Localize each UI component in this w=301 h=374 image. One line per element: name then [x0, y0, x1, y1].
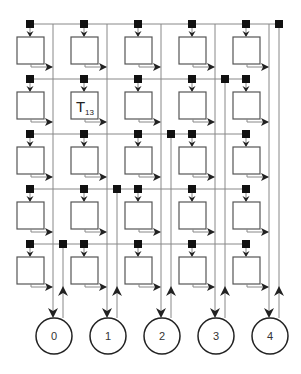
- tap-node-icon: [134, 130, 142, 138]
- nodes-layer: 01234: [36, 318, 288, 354]
- processing-cell: [233, 240, 268, 287]
- processing-cell: [71, 240, 106, 287]
- tap-node-icon: [188, 185, 196, 193]
- processing-cell: [71, 20, 106, 67]
- injection-node-icon: [275, 20, 283, 28]
- tap-node-icon: [242, 185, 250, 193]
- cell-box: [233, 147, 260, 174]
- cell-box: [125, 202, 152, 229]
- tap-node-icon: [80, 20, 88, 28]
- processing-cell: [17, 185, 52, 232]
- processing-cell: [17, 240, 52, 287]
- cell-box: [233, 257, 260, 284]
- cell-label: T: [76, 98, 85, 115]
- cell-box: [71, 147, 98, 174]
- tap-node-icon: [26, 20, 34, 28]
- tap-node-icon: [26, 185, 34, 193]
- injection-node-icon: [221, 75, 229, 83]
- tap-node-icon: [242, 130, 250, 138]
- cell-box: [17, 92, 44, 119]
- cell-box: [71, 257, 98, 284]
- tap-node-icon: [80, 130, 88, 138]
- cell-box: [179, 92, 206, 119]
- node-label: 3: [213, 330, 219, 342]
- processing-cell: [125, 130, 160, 177]
- tap-node-icon: [134, 240, 142, 248]
- tap-node-icon: [188, 20, 196, 28]
- tap-node-icon: [188, 130, 196, 138]
- cell-box: [17, 202, 44, 229]
- cell-box: [17, 37, 44, 64]
- node-label: 0: [51, 330, 57, 342]
- processing-cell: [179, 240, 214, 287]
- processing-cell: [125, 20, 160, 67]
- processor-grid-diagram: T13 01234: [0, 0, 301, 374]
- processing-cell: [125, 240, 160, 287]
- cell-box: [179, 147, 206, 174]
- injection-node-icon: [167, 130, 175, 138]
- cell-box: [125, 257, 152, 284]
- tap-node-icon: [26, 240, 34, 248]
- tap-node-icon: [188, 240, 196, 248]
- processing-cell: [71, 185, 106, 232]
- cell-box: [179, 37, 206, 64]
- cell-box: [17, 147, 44, 174]
- cell-box: [125, 147, 152, 174]
- node-label: 4: [267, 330, 273, 342]
- processing-cell: [17, 20, 52, 67]
- tap-node-icon: [242, 20, 250, 28]
- cell-box: [179, 202, 206, 229]
- cell-box: [179, 257, 206, 284]
- injection-node-icon: [59, 240, 67, 248]
- tap-node-icon: [80, 75, 88, 83]
- tap-node-icon: [134, 185, 142, 193]
- cell-box: [125, 37, 152, 64]
- processing-cell: [179, 20, 214, 67]
- cell-box: [233, 202, 260, 229]
- processing-cell: [233, 20, 268, 67]
- cell-box: [17, 257, 44, 284]
- tap-node-icon: [80, 185, 88, 193]
- tap-node-icon: [134, 75, 142, 83]
- tap-node-icon: [80, 240, 88, 248]
- processing-cell: [125, 75, 160, 122]
- processing-cell: [71, 130, 106, 177]
- cell-box: [71, 202, 98, 229]
- tap-node-icon: [242, 75, 250, 83]
- node-label: 2: [159, 330, 165, 342]
- cell-box: [233, 37, 260, 64]
- processing-cell: [179, 130, 214, 177]
- processing-cell: [17, 75, 52, 122]
- node-label: 1: [105, 330, 111, 342]
- cell-box: [233, 92, 260, 119]
- processing-cell: [233, 75, 268, 122]
- tap-node-icon: [134, 20, 142, 28]
- cell-box: [71, 37, 98, 64]
- tap-node-icon: [188, 75, 196, 83]
- tap-node-icon: [26, 130, 34, 138]
- processing-cell: [233, 185, 268, 232]
- cells-layer: T13: [17, 20, 268, 287]
- processing-cell: T13: [71, 75, 106, 122]
- cell-label-subscript: 13: [85, 108, 94, 117]
- processing-cell: [179, 185, 214, 232]
- injection-node-icon: [113, 185, 121, 193]
- processing-cell: [17, 130, 52, 177]
- cell-box: [125, 92, 152, 119]
- processing-cell: [125, 185, 160, 232]
- processing-cell: [233, 130, 268, 177]
- processing-cell: [179, 75, 214, 122]
- tap-node-icon: [26, 75, 34, 83]
- tap-node-icon: [242, 240, 250, 248]
